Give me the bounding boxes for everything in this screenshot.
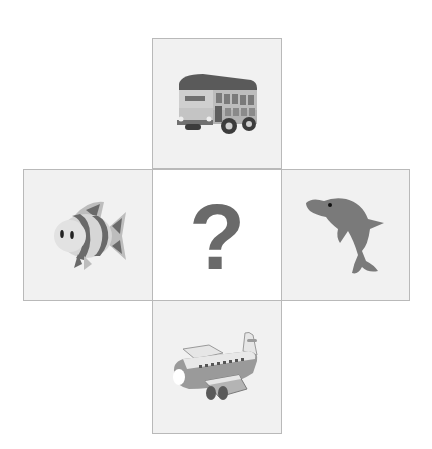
tile-top[interactable] (152, 38, 282, 169)
tile-left[interactable] (23, 169, 153, 301)
tile-center[interactable]: ? (152, 169, 282, 301)
question-mark: ? (189, 191, 245, 283)
fish-icon (48, 198, 128, 272)
tile-right[interactable] (281, 169, 410, 301)
tile-bottom[interactable] (152, 300, 282, 434)
dolphin-icon (304, 195, 388, 275)
bus-icon (173, 72, 261, 136)
airplane-icon (169, 331, 265, 403)
